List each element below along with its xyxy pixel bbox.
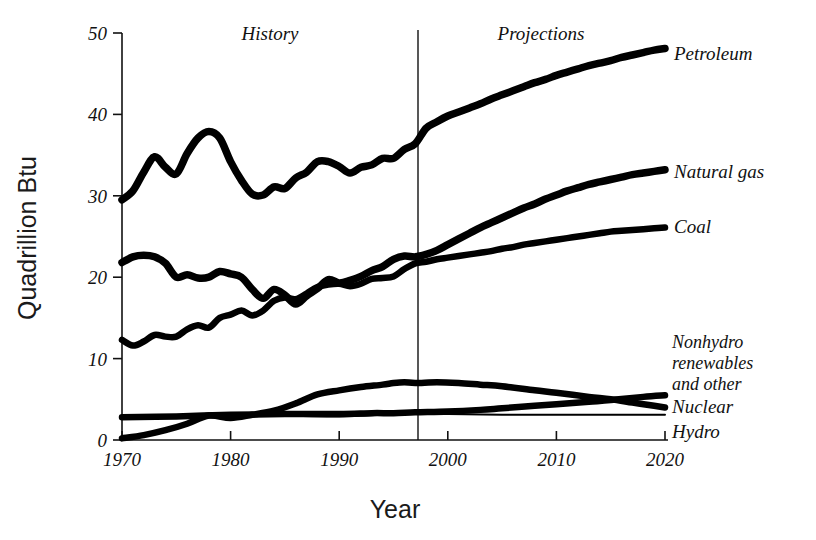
series-label-nonhydro-line2: renewables xyxy=(672,353,753,373)
series-label-petroleum: Petroleum xyxy=(673,43,752,64)
series-label-nonhydro-line1: Nonhydro xyxy=(671,332,743,352)
energy-consumption-line-chart: Quadrillion Btu Year 01020304050 1970198… xyxy=(0,0,816,540)
series-line-coal xyxy=(122,228,665,346)
series-label-hydro: Hydro xyxy=(671,421,720,442)
series-label-nonhydro-line3: and other xyxy=(672,374,742,394)
chart-figure: Quadrillion Btu Year 01020304050 1970198… xyxy=(0,0,816,540)
y-axis-label: Quadrillion Btu xyxy=(13,156,41,320)
y-axis-ticks: 01020304050 xyxy=(87,23,122,451)
x-tick-label: 1990 xyxy=(320,449,359,470)
history-annotation: History xyxy=(241,23,300,44)
x-axis-label: Year xyxy=(370,495,421,523)
series-curves xyxy=(122,48,665,438)
x-axis-ticks: 197019801990200020102020 xyxy=(103,431,685,470)
y-tick-label: 40 xyxy=(88,104,108,125)
x-tick-label: 2000 xyxy=(429,449,468,470)
projections-annotation: Projections xyxy=(497,23,585,44)
x-tick-label: 2020 xyxy=(646,449,685,470)
series-label-nuclear: Nuclear xyxy=(671,396,734,417)
y-tick-label: 30 xyxy=(87,186,108,207)
x-tick-label: 1980 xyxy=(212,449,251,470)
series-label-natural-gas: Natural gas xyxy=(673,161,764,182)
y-tick-label: 20 xyxy=(88,267,108,288)
y-tick-label: 0 xyxy=(98,430,108,451)
series-line-petroleum xyxy=(122,48,665,199)
series-label-coal: Coal xyxy=(674,216,711,237)
y-tick-label: 10 xyxy=(88,349,108,370)
x-tick-label: 2010 xyxy=(537,449,576,470)
y-tick-label: 50 xyxy=(88,23,108,44)
x-tick-label: 1970 xyxy=(103,449,142,470)
